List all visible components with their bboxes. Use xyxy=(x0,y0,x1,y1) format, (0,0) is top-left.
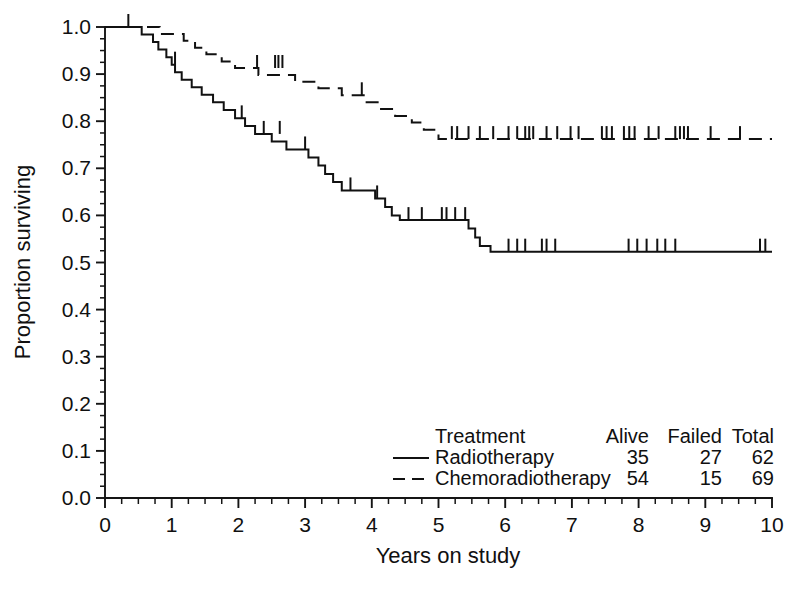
y-tick-label: 1.0 xyxy=(62,15,91,38)
censoring-marks xyxy=(128,14,765,252)
y-tick-label: 0.1 xyxy=(62,439,91,462)
x-tick-label: 4 xyxy=(366,513,378,536)
y-tick-label: 0.4 xyxy=(62,298,92,321)
y-tick-label: 0.7 xyxy=(62,156,91,179)
legend-row-alive: 35 xyxy=(627,446,649,468)
x-tick-label: 6 xyxy=(499,513,511,536)
y-tick-label: 0.8 xyxy=(62,109,91,132)
legend-row-label: Radiotherapy xyxy=(435,446,554,468)
legend-row-label: Chemoradiotherapy xyxy=(435,467,611,489)
legend-header-treatment: Treatment xyxy=(435,425,526,447)
y-tick-label: 0.2 xyxy=(62,392,91,415)
legend-row-total: 69 xyxy=(752,467,774,489)
x-tick-label: 8 xyxy=(633,513,645,536)
x-axis: 012345678910 xyxy=(99,498,784,536)
y-tick-label: 0.0 xyxy=(62,486,91,509)
x-axis-title: Years on study xyxy=(376,543,521,568)
km-chart-svg: 0.00.10.20.30.40.50.60.70.80.91.0 012345… xyxy=(0,0,806,591)
y-tick-label: 0.9 xyxy=(62,62,91,85)
x-tick-label: 3 xyxy=(299,513,311,536)
survival-curves xyxy=(105,27,772,252)
y-axis: 0.00.10.20.30.40.50.60.70.80.91.0 xyxy=(62,15,105,509)
x-tick-label: 1 xyxy=(166,513,178,536)
legend-row-failed: 27 xyxy=(700,446,722,468)
legend-header-alive: Alive xyxy=(606,425,649,447)
x-tick-label: 5 xyxy=(433,513,445,536)
x-tick-label: 9 xyxy=(699,513,711,536)
y-tick-label: 0.6 xyxy=(62,203,91,226)
legend-header-total: Total xyxy=(732,425,774,447)
x-tick-label: 2 xyxy=(233,513,245,536)
plot-area: 0.00.10.20.30.40.50.60.70.80.91.0 012345… xyxy=(10,14,784,568)
x-tick-label: 0 xyxy=(99,513,111,536)
x-tick-label: 10 xyxy=(760,513,783,536)
legend-row-alive: 54 xyxy=(627,467,649,489)
km-survival-figure: 0.00.10.20.30.40.50.60.70.80.91.0 012345… xyxy=(0,0,806,591)
chart-legend: TreatmentAliveFailedTotalRadiotherapy352… xyxy=(393,425,774,489)
legend-row-total: 62 xyxy=(752,446,774,468)
x-tick-label: 7 xyxy=(566,513,578,536)
y-axis-title: Proportion surviving xyxy=(10,165,35,359)
survival-curve-chemoradiotherapy xyxy=(105,27,772,139)
y-tick-label: 0.5 xyxy=(62,251,91,274)
legend-row-failed: 15 xyxy=(700,467,722,489)
y-tick-label: 0.3 xyxy=(62,345,91,368)
legend-header-failed: Failed xyxy=(668,425,722,447)
